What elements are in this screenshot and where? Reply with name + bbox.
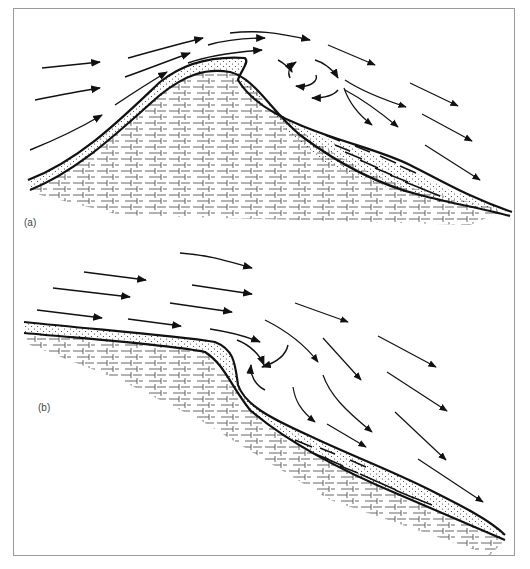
diagram-canvas: (a): [0, 0, 530, 569]
panel-a: (a): [24, 32, 512, 228]
panel-b: (b): [24, 253, 505, 555]
eddy-a: [278, 60, 338, 98]
panel-label-b: (b): [38, 402, 50, 413]
panel-label-a: (a): [24, 217, 36, 228]
